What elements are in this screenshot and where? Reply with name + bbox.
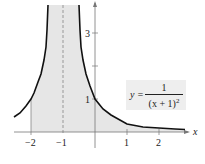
x-axis-label: x [192, 126, 198, 137]
y-tick-label: 1 [85, 94, 90, 105]
x-tick-label: −1 [56, 137, 67, 148]
x-tick-label: 1 [124, 137, 129, 148]
denominator-exponent: 2 [176, 97, 180, 105]
x-tick-label: 2 [156, 137, 161, 148]
equation-box: y = 1 (x + 1)2 [126, 80, 186, 110]
equation-fraction: 1 (x + 1)2 [145, 82, 183, 109]
denominator-base: (x + 1) [149, 98, 176, 109]
y-tick-label: 3 [85, 28, 90, 39]
equation-lhs: y = [130, 89, 144, 100]
x-axis-arrow [184, 130, 190, 134]
equation-numerator: 1 [145, 82, 183, 93]
fraction-bar [145, 94, 183, 95]
x-tick-label: −2 [25, 137, 36, 148]
equation-denominator: (x + 1)2 [145, 96, 183, 109]
y-axis-arrow [93, 1, 97, 7]
